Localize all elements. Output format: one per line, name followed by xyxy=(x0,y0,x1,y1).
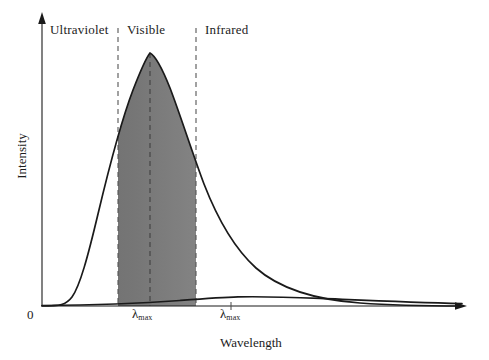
visible-band-shading xyxy=(42,53,462,306)
blackbody-radiation-chart: Ultraviolet Visible Infrared Intensity W… xyxy=(0,0,489,360)
band-label-ultraviolet: Ultraviolet xyxy=(50,22,109,38)
x-axis-label: Wavelength xyxy=(220,335,282,351)
chart-canvas xyxy=(0,0,489,360)
x-tick-label-lambda-max-cool: λmax xyxy=(220,306,240,322)
y-axis xyxy=(38,12,46,306)
y-axis-label: Intensity xyxy=(14,116,30,196)
band-label-infrared: Infrared xyxy=(205,22,248,38)
x-tick-label-lambda-max-hot: λmax xyxy=(132,306,152,322)
curve-hot-blackbody xyxy=(42,53,462,306)
band-label-visible: Visible xyxy=(127,22,165,38)
lambda-subscript: max xyxy=(226,313,240,322)
lambda-subscript: max xyxy=(138,313,152,322)
origin-label: 0 xyxy=(27,307,34,323)
curve-cool-blackbody xyxy=(42,297,462,306)
